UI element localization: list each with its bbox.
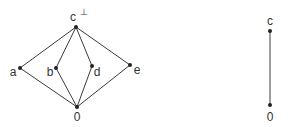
chain-right-node-c: [268, 29, 272, 33]
lattice-left-edge-c-b: [56, 27, 76, 68]
lattice-left-label-c: c: [70, 10, 76, 24]
lattice-left-node-c: [74, 25, 78, 29]
chain-right-label-c: c: [267, 14, 273, 28]
lattice-left-label-a: a: [10, 65, 17, 79]
chain-right-node-0: [268, 103, 272, 107]
lattice-left-label-b: b: [47, 65, 54, 79]
lattice-left-node-b: [54, 66, 58, 70]
lattice-left-node-e: [128, 63, 132, 67]
lattice-left-label-d: d: [94, 65, 101, 79]
lattice-left-edge-c-a: [20, 27, 76, 68]
nodes: [18, 25, 272, 109]
lattice-diagram-canvas: c⊥abde0c0: [0, 0, 289, 127]
lattice-left-edge-b-0: [56, 68, 77, 107]
lattice-left-node-0: [75, 105, 79, 109]
chain-right-label-0: 0: [267, 110, 274, 124]
lattice-left-label-e: e: [134, 63, 141, 77]
labels: c⊥abde0c0: [10, 7, 274, 124]
lattice-left-label-0: 0: [74, 110, 81, 124]
lattice-left-label-c-superscript: ⊥: [80, 7, 88, 17]
lattice-left-node-a: [18, 66, 22, 70]
